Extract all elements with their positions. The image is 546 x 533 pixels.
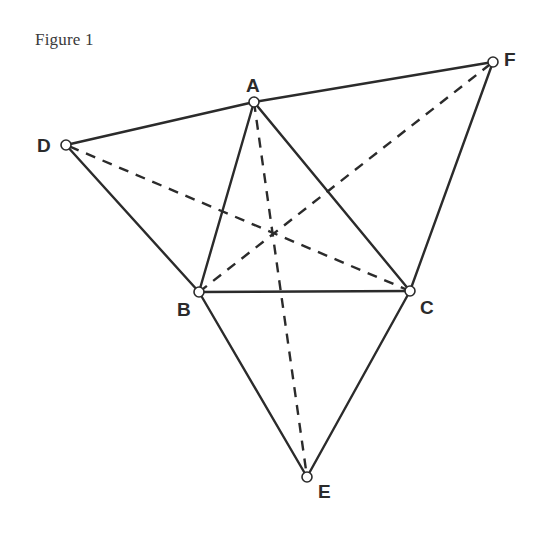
- segment-da: [66, 102, 254, 145]
- vertex-c: [405, 286, 415, 296]
- vertex-labels: ABCDEF: [37, 49, 516, 502]
- vertex-d: [61, 140, 71, 150]
- dashed-segments: [66, 62, 493, 477]
- vertex-label-c: C: [420, 297, 434, 318]
- vertex-label-a: A: [246, 75, 260, 96]
- vertex-b: [194, 287, 204, 297]
- vertex-label-f: F: [504, 49, 516, 70]
- vertex-f: [488, 57, 498, 67]
- segment-db: [66, 145, 199, 292]
- segment-ec: [307, 291, 410, 477]
- vertex-e: [302, 472, 312, 482]
- segment-fa: [254, 62, 493, 102]
- vertices: [61, 57, 498, 482]
- dashed-segment-bf: [199, 62, 493, 292]
- segment-ab: [199, 102, 254, 292]
- vertex-a: [249, 97, 259, 107]
- vertex-label-d: D: [37, 135, 51, 156]
- geometry-diagram: ABCDEF: [0, 0, 546, 533]
- solid-segments: [66, 62, 493, 477]
- segment-eb: [199, 292, 307, 477]
- vertex-label-e: E: [318, 481, 331, 502]
- segment-bc: [199, 291, 410, 292]
- vertex-label-b: B: [177, 299, 191, 320]
- segment-fc: [410, 62, 493, 291]
